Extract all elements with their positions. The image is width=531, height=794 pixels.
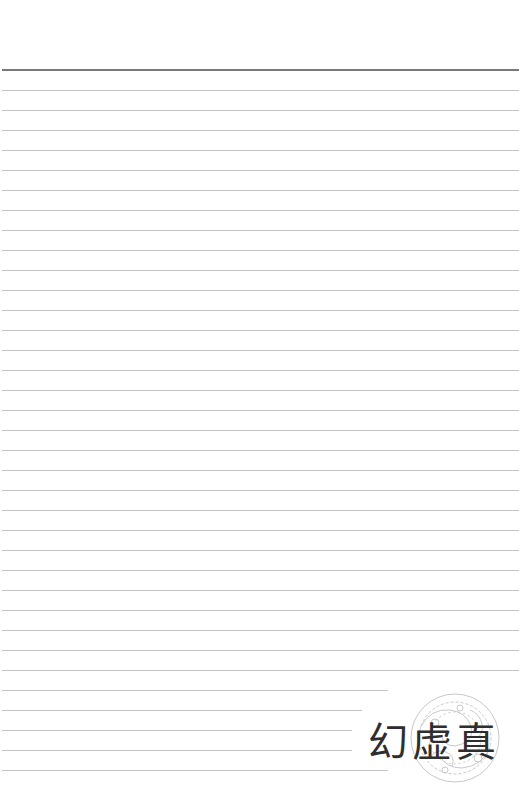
ruled-line xyxy=(2,710,362,711)
ruled-line xyxy=(2,610,519,611)
ruled-line xyxy=(2,370,519,371)
ruled-line xyxy=(2,750,352,751)
ruled-line xyxy=(2,270,519,271)
ruled-line xyxy=(2,470,519,471)
ruled-line xyxy=(2,330,519,331)
ruled-line xyxy=(2,450,519,451)
ruled-line xyxy=(2,110,519,111)
ruled-line xyxy=(2,630,519,631)
ruled-line xyxy=(2,310,519,311)
notebook-page: 幻虚真 xyxy=(0,0,531,794)
ruled-line xyxy=(2,390,519,391)
ruled-line xyxy=(2,690,388,691)
ruled-line xyxy=(2,650,519,651)
ruled-line xyxy=(2,530,519,531)
ruled-line xyxy=(2,250,519,251)
ruled-line xyxy=(2,550,519,551)
ruled-line xyxy=(2,130,519,131)
ruled-line xyxy=(2,90,519,91)
ruled-line xyxy=(2,170,519,171)
ruled-line xyxy=(2,670,519,671)
ruled-line xyxy=(2,190,519,191)
ruled-line xyxy=(2,410,519,411)
ruled-line xyxy=(2,570,519,571)
ruled-line xyxy=(2,350,519,351)
ruled-line xyxy=(2,490,519,491)
ruled-line xyxy=(2,590,519,591)
ruled-line xyxy=(2,730,352,731)
ruled-line xyxy=(2,210,519,211)
logo-text: 幻虚真 xyxy=(368,710,500,768)
top-rule xyxy=(2,69,519,71)
ruled-line xyxy=(2,510,519,511)
brand-logo: 幻虚真 xyxy=(360,688,525,788)
ruled-line xyxy=(2,770,388,771)
ruled-line xyxy=(2,230,519,231)
ruled-line xyxy=(2,430,519,431)
ruled-line xyxy=(2,150,519,151)
ruled-line xyxy=(2,290,519,291)
